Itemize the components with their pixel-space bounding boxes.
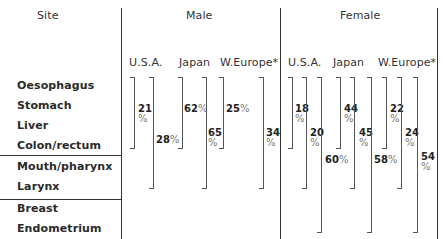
site-label: Stomach [17, 99, 72, 112]
female-header: Female [340, 9, 380, 22]
percent-label: 28% [156, 135, 179, 145]
digestive-group-divider [0, 155, 122, 156]
site-label: Larynx [17, 180, 60, 193]
male-region-weurope: W.Europe* [220, 56, 278, 69]
percent-label: 25% [226, 104, 249, 114]
bracket [178, 77, 183, 149]
bracket [219, 77, 224, 149]
right-border [437, 8, 438, 239]
site-label: Breast [17, 202, 58, 215]
site-label: Colon/rectum [17, 139, 101, 152]
bracket [149, 77, 154, 189]
site-label: Liver [17, 119, 48, 132]
percent-label: 54% [421, 152, 435, 172]
bracket [130, 77, 135, 149]
bracket [288, 77, 293, 149]
percent-label: 34% [266, 128, 280, 148]
male-region-japan: Japan [179, 56, 210, 69]
site-label: Oesophagus [17, 79, 94, 92]
percent-label: 58% [374, 155, 397, 165]
bracket [302, 77, 307, 189]
female-region-japan: Japan [333, 56, 364, 69]
bracket [259, 77, 264, 189]
site-header: Site [37, 9, 59, 22]
bracket [336, 77, 341, 149]
male-header: Male [186, 9, 212, 22]
site-column-divider [121, 8, 122, 239]
site-label: Mouth/pharynx [17, 160, 112, 173]
bracket [382, 77, 387, 149]
bracket [317, 77, 322, 233]
bracket [202, 77, 207, 189]
female-region-usa: U.S.A. [288, 56, 321, 69]
female-region-weurope: W.Europe* [378, 56, 436, 69]
bracket [397, 77, 402, 189]
bracket [367, 77, 372, 233]
bracket [350, 77, 355, 189]
male-female-divider [280, 8, 281, 239]
percent-label: 60% [325, 155, 348, 165]
male-region-usa: U.S.A. [129, 56, 162, 69]
upper-aero-group-divider [0, 199, 122, 200]
bracket [413, 77, 418, 233]
site-label: Endometrium [17, 222, 102, 235]
